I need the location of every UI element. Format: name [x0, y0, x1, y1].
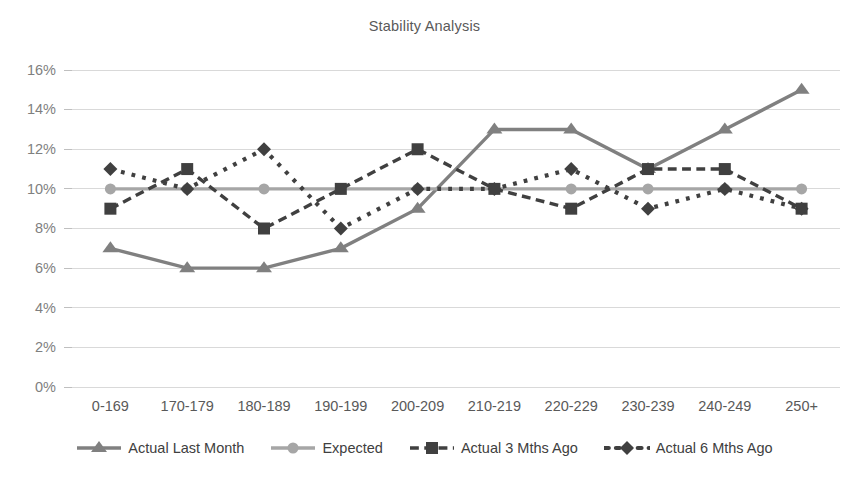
- x-tick-label: 180-189: [237, 398, 290, 414]
- legend-swatch-square-icon: [409, 440, 455, 456]
- legend-label: Actual 3 Mths Ago: [461, 440, 578, 456]
- y-tick-label: 2%: [35, 339, 56, 355]
- square-marker: [426, 442, 438, 454]
- stability-analysis-chart: Stability Analysis 0%2%4%6%8%10%12%14%16…: [0, 0, 849, 488]
- x-tick-label: 250+: [785, 398, 818, 414]
- legend-label: Actual Last Month: [128, 440, 244, 456]
- x-axis-tick-labels: 0-169170-179180-189190-199200-209210-219…: [92, 398, 818, 414]
- legend-swatch-diamond-icon: [604, 440, 650, 456]
- square-marker: [642, 163, 654, 175]
- square-marker: [565, 203, 577, 215]
- diamond-marker: [180, 182, 194, 196]
- diamond-marker: [620, 441, 634, 455]
- chart-legend: Actual Last MonthExpectedActual 3 Mths A…: [0, 440, 849, 456]
- y-tick-label: 4%: [35, 300, 56, 316]
- x-tick-label: 200-209: [391, 398, 444, 414]
- diamond-marker: [334, 222, 348, 236]
- circle-marker: [566, 183, 577, 194]
- triangle-marker: [794, 83, 810, 94]
- gridlines: [64, 70, 840, 387]
- x-tick-label: 240-249: [698, 398, 751, 414]
- y-tick-label: 10%: [27, 181, 56, 197]
- square-marker: [181, 163, 193, 175]
- circle-marker: [288, 443, 299, 454]
- x-tick-label: 0-169: [92, 398, 129, 414]
- legend-swatch-circle-icon: [270, 440, 316, 456]
- plot-area: 0%2%4%6%8%10%12%14%16% 0-169170-179180-1…: [0, 0, 849, 440]
- x-tick-label: 190-199: [314, 398, 367, 414]
- legend-label: Expected: [322, 440, 382, 456]
- legend-entry[interactable]: Actual Last Month: [76, 440, 244, 456]
- y-tick-label: 16%: [27, 62, 56, 78]
- circle-marker: [105, 183, 116, 194]
- y-tick-label: 6%: [35, 260, 56, 276]
- diamond-marker: [411, 182, 425, 196]
- y-tick-label: 0%: [35, 379, 56, 395]
- legend-entry[interactable]: Actual 6 Mths Ago: [604, 440, 773, 456]
- legend-label: Actual 6 Mths Ago: [656, 440, 773, 456]
- y-axis-tick-labels: 0%2%4%6%8%10%12%14%16%: [27, 62, 56, 395]
- circle-marker: [643, 183, 654, 194]
- legend-swatch-triangle-icon: [76, 440, 122, 456]
- square-marker: [719, 163, 731, 175]
- circle-marker: [796, 183, 807, 194]
- square-marker: [335, 183, 347, 195]
- triangle-marker: [102, 241, 118, 252]
- diamond-marker: [103, 162, 117, 176]
- square-marker: [258, 223, 270, 235]
- series-line: [110, 90, 801, 268]
- diamond-marker: [718, 182, 732, 196]
- y-tick-label: 14%: [27, 101, 56, 117]
- square-marker: [412, 143, 424, 155]
- diamond-marker: [564, 162, 578, 176]
- y-tick-label: 8%: [35, 220, 56, 236]
- y-tick-label: 12%: [27, 141, 56, 157]
- diamond-marker: [257, 142, 271, 156]
- series-actual-last-month: [102, 83, 809, 272]
- diamond-marker: [641, 202, 655, 216]
- x-tick-label: 220-229: [545, 398, 598, 414]
- legend-entry[interactable]: Actual 3 Mths Ago: [409, 440, 578, 456]
- circle-marker: [259, 183, 270, 194]
- data-series: [102, 83, 809, 272]
- x-tick-label: 210-219: [468, 398, 521, 414]
- legend-entry[interactable]: Expected: [270, 440, 382, 456]
- square-marker: [104, 203, 116, 215]
- x-tick-label: 230-239: [621, 398, 674, 414]
- x-tick-label: 170-179: [161, 398, 214, 414]
